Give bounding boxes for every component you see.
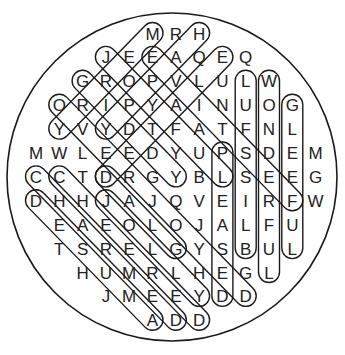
grid-letter[interactable]: R	[123, 168, 135, 187]
grid-letter[interactable]: D	[216, 287, 228, 306]
grid-letter[interactable]: U	[286, 216, 298, 235]
grid-letter[interactable]: W	[51, 144, 67, 163]
grid-letter[interactable]: R	[170, 25, 182, 44]
grid-letter[interactable]: U	[193, 144, 205, 163]
grid-letter[interactable]: R	[100, 72, 112, 91]
grid-letter[interactable]: H	[53, 192, 65, 211]
grid-letter[interactable]: M	[122, 287, 136, 306]
grid-letter[interactable]: Y	[193, 287, 204, 306]
grid-letter[interactable]: P	[217, 144, 228, 163]
grid-letter[interactable]: Y	[170, 168, 181, 187]
grid-letter[interactable]: A	[170, 96, 182, 115]
grid-letter[interactable]: A	[217, 216, 229, 235]
grid-letter[interactable]: D	[146, 144, 158, 163]
grid-letter[interactable]: D	[193, 311, 205, 330]
grid-letter[interactable]: E	[217, 192, 228, 211]
grid-letter[interactable]: O	[123, 72, 136, 91]
grid-letter[interactable]: O	[123, 216, 136, 235]
grid-letter[interactable]: U	[100, 264, 112, 283]
grid-letter[interactable]: B	[240, 240, 251, 259]
grid-letter[interactable]: I	[243, 192, 248, 211]
grid-letter[interactable]: Q	[192, 48, 205, 67]
grid-letter[interactable]: L	[171, 264, 180, 283]
grid-letter[interactable]: N	[216, 96, 228, 115]
grid-letter[interactable]: E	[100, 144, 111, 163]
grid-letter[interactable]: E	[124, 48, 135, 67]
grid-letter[interactable]: V	[77, 120, 89, 139]
grid-letter[interactable]: Y	[54, 120, 65, 139]
grid-letter[interactable]: D	[123, 120, 135, 139]
grid-letter[interactable]: M	[122, 264, 136, 283]
grid-letter[interactable]: R	[100, 240, 112, 259]
grid-letter[interactable]: G	[239, 264, 252, 283]
grid-letter[interactable]: J	[102, 192, 111, 211]
grid-letter[interactable]: D	[263, 144, 275, 163]
grid-letter[interactable]: H	[193, 25, 205, 44]
grid-letter[interactable]: L	[288, 240, 297, 259]
grid-letter[interactable]: Q	[239, 48, 252, 67]
grid-letter[interactable]: E	[124, 144, 135, 163]
grid-letter[interactable]: S	[240, 144, 251, 163]
grid-letter[interactable]: J	[148, 192, 157, 211]
grid-letter[interactable]: V	[193, 192, 205, 211]
grid-letter[interactable]: F	[264, 216, 274, 235]
grid-letter[interactable]: R	[263, 192, 275, 211]
grid-letter[interactable]: E	[54, 216, 65, 235]
grid-letter[interactable]: L	[78, 144, 87, 163]
grid-letter[interactable]: M	[309, 144, 323, 163]
grid-letter[interactable]: D	[100, 168, 112, 187]
grid-letter[interactable]: F	[287, 192, 297, 211]
grid-letter[interactable]: O	[53, 96, 66, 115]
grid-letter[interactable]: W	[261, 72, 277, 91]
grid-letter[interactable]: J	[195, 216, 204, 235]
grid-letter[interactable]: U	[216, 72, 228, 91]
grid-letter[interactable]: R	[146, 264, 158, 283]
grid-letter[interactable]: A	[124, 192, 136, 211]
grid-letter[interactable]: P	[147, 72, 158, 91]
grid-letter[interactable]: L	[218, 168, 227, 187]
grid-letter[interactable]: A	[193, 120, 205, 139]
grid-letter[interactable]: E	[124, 240, 135, 259]
grid-letter[interactable]: L	[288, 120, 297, 139]
grid-letter[interactable]: T	[147, 120, 157, 139]
grid-letter[interactable]: E	[147, 287, 158, 306]
grid-letter[interactable]: Y	[170, 144, 181, 163]
grid-letter[interactable]: G	[146, 168, 159, 187]
grid-letter[interactable]: E	[287, 144, 298, 163]
grid-letter[interactable]: J	[102, 48, 111, 67]
grid-letter[interactable]: D	[30, 192, 42, 211]
grid-letter[interactable]: L	[241, 216, 250, 235]
grid-letter[interactable]: Y	[147, 96, 158, 115]
grid-letter[interactable]: I	[104, 96, 109, 115]
grid-letter[interactable]: L	[194, 72, 203, 91]
grid-letter[interactable]: J	[102, 287, 111, 306]
grid-letter[interactable]: U	[263, 240, 275, 259]
grid-letter[interactable]: G	[286, 96, 299, 115]
grid-letter[interactable]: E	[287, 168, 298, 187]
grid-letter[interactable]: G	[309, 168, 322, 187]
grid-letter[interactable]: S	[240, 168, 251, 187]
grid-letter[interactable]: L	[264, 264, 273, 283]
grid-letter[interactable]: L	[148, 216, 157, 235]
grid-letter[interactable]: A	[77, 216, 89, 235]
grid-letter[interactable]: E	[217, 264, 228, 283]
grid-letter[interactable]: R	[76, 96, 88, 115]
grid-letter[interactable]: S	[77, 240, 88, 259]
grid-letter[interactable]: Y	[100, 120, 111, 139]
grid-letter[interactable]: E	[147, 48, 158, 67]
grid-letter[interactable]: L	[241, 72, 250, 91]
grid-letter[interactable]: F	[241, 120, 251, 139]
grid-letter[interactable]: M	[29, 144, 43, 163]
grid-letter[interactable]: C	[30, 168, 42, 187]
grid-letter[interactable]: N	[263, 120, 275, 139]
grid-letter[interactable]: S	[217, 240, 228, 259]
grid-letter[interactable]: V	[170, 72, 182, 91]
grid-letter[interactable]: H	[193, 264, 205, 283]
grid-letter[interactable]: M	[145, 25, 159, 44]
grid-letter[interactable]: F	[171, 120, 181, 139]
grid-letter[interactable]: O	[262, 96, 275, 115]
grid-letter[interactable]: Q	[169, 192, 182, 211]
grid-letter[interactable]: T	[217, 120, 227, 139]
grid-letter[interactable]: G	[169, 240, 182, 259]
grid-letter[interactable]: E	[263, 168, 274, 187]
